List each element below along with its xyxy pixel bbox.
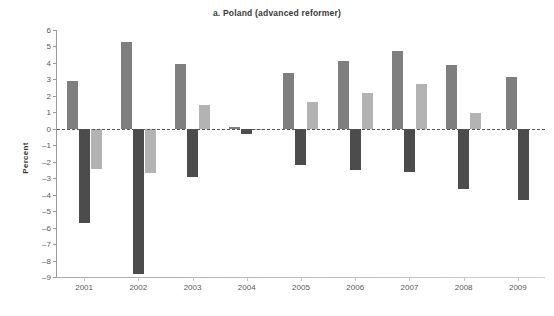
bar-series-1-2008 (446, 65, 457, 129)
bar-series-3-2001 (91, 129, 102, 169)
zero-reference-line (57, 129, 545, 130)
bar-series-3-2005 (307, 102, 318, 128)
y-tick-label: 4 (21, 58, 51, 67)
x-tick-mark (138, 277, 139, 281)
bar-series-1-2005 (283, 73, 294, 129)
bar-series-2-2006 (350, 129, 361, 170)
y-tick-label: –4 (21, 190, 51, 199)
bar-series-1-2006 (338, 61, 349, 129)
x-tick-mark (193, 277, 194, 281)
y-tick-label: 5 (21, 42, 51, 51)
bar-series-3-2008 (470, 113, 481, 129)
bar-series-1-2003 (175, 64, 186, 129)
y-tick-label: –1 (21, 141, 51, 150)
bar-series-1-2001 (67, 81, 78, 129)
x-tick-label-2008: 2008 (434, 283, 494, 292)
x-tick-label-2002: 2002 (108, 283, 168, 292)
y-tick-label: –9 (21, 273, 51, 282)
bar-series-1-2009 (506, 77, 517, 129)
bar-group (274, 30, 328, 277)
bar-group (437, 30, 491, 277)
x-tick-label-2001: 2001 (54, 283, 114, 292)
y-tick-label: –2 (21, 157, 51, 166)
x-tick-mark (409, 277, 410, 281)
y-tick-label: –3 (21, 174, 51, 183)
x-tick-mark (84, 277, 85, 281)
bar-group (220, 30, 274, 277)
bar-series-2-2007 (404, 129, 415, 172)
x-tick-label-2003: 2003 (163, 283, 223, 292)
x-tick-label-2005: 2005 (271, 283, 331, 292)
bar-series-2-2003 (187, 129, 198, 177)
bar-group (165, 30, 219, 277)
bar-series-2-2005 (295, 129, 306, 165)
y-tick-label: –7 (21, 240, 51, 249)
bar-series-2-2009 (518, 129, 529, 201)
bar-series-2-2002 (133, 129, 144, 274)
y-tick-label: 0 (21, 124, 51, 133)
bar-group (491, 30, 545, 277)
bar-group (57, 30, 111, 277)
bar-series-3-2007 (416, 84, 427, 128)
x-tick-mark (247, 277, 248, 281)
x-tick-mark (355, 277, 356, 281)
x-tick-label-2006: 2006 (325, 283, 385, 292)
y-tick-label: 1 (21, 108, 51, 117)
bar-group (328, 30, 382, 277)
bar-series-2-2001 (79, 129, 90, 223)
bar-series-1-2007 (392, 51, 403, 129)
x-tick-label-2009: 2009 (488, 283, 548, 292)
bar-group (382, 30, 436, 277)
y-tick-mark (53, 277, 57, 278)
y-tick-label: –6 (21, 223, 51, 232)
bar-group (111, 30, 165, 277)
bar-series-1-2002 (121, 42, 132, 128)
plot-area: 6543210–1–2–3–4–5–6–7–8–9 20012002200320… (57, 30, 545, 277)
bar-series-3-2003 (199, 105, 210, 129)
y-tick-label: 6 (21, 26, 51, 35)
chart-figure: a. Poland (advanced reformer) Percent 65… (0, 0, 554, 316)
bar-series-2-2008 (458, 129, 469, 189)
bar-series-3-2002 (145, 129, 156, 173)
x-tick-label-2007: 2007 (379, 283, 439, 292)
x-tick-mark (518, 277, 519, 281)
y-tick-label: –8 (21, 256, 51, 265)
bar-series-3-2006 (362, 93, 373, 129)
y-tick-label: 2 (21, 91, 51, 100)
y-tick-label: 3 (21, 75, 51, 84)
x-tick-mark (464, 277, 465, 281)
x-tick-label-2004: 2004 (217, 283, 277, 292)
x-tick-mark (301, 277, 302, 281)
chart-title: a. Poland (advanced reformer) (0, 8, 554, 18)
y-tick-label: –5 (21, 207, 51, 216)
bar-groups (57, 30, 545, 277)
